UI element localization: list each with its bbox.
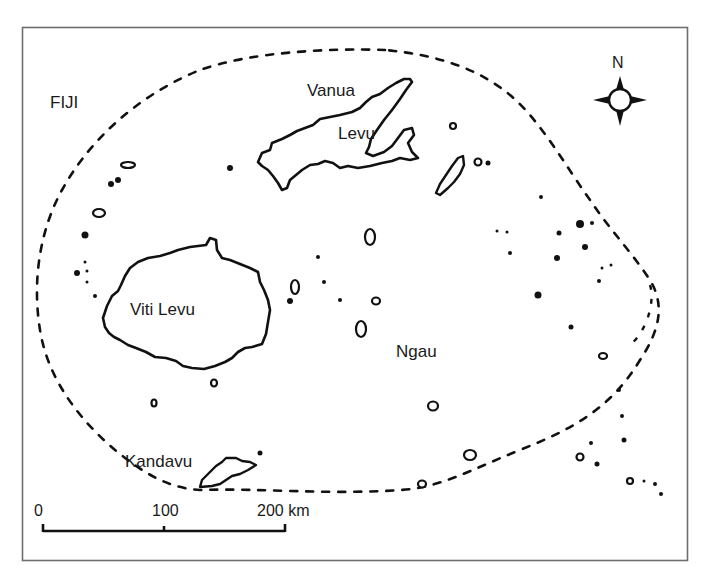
fiji-map: FIJI Vanua Levu Viti Levu Ngau Kandavu N… [0, 0, 717, 584]
scale-tick-0: 0 [34, 503, 43, 519]
island-label-vanua: Vanua [307, 82, 355, 99]
north-label: N [612, 55, 624, 71]
scale-bar [43, 524, 285, 532]
scale-tick-100: 100 [152, 503, 179, 519]
boundary-branch [630, 285, 652, 345]
map-canvas [0, 0, 717, 584]
island-label-levu: Levu [338, 125, 375, 142]
island-kandavu [200, 458, 256, 487]
country-label: FIJI [50, 94, 78, 111]
island-label-kandavu: Kandavu [125, 453, 192, 470]
island-label-ngau: Ngau [396, 343, 437, 360]
compass-rose-icon [593, 76, 647, 126]
island-taveuni [436, 156, 464, 195]
scale-tick-200: 200 km [257, 503, 309, 519]
island-label-viti-levu: Viti Levu [130, 301, 195, 318]
